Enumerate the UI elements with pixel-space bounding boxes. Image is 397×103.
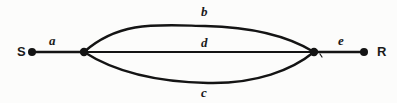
- node-stub-mark: [320, 54, 322, 57]
- node-receiver-dot: [360, 48, 368, 56]
- node-junction-left-dot: [80, 48, 88, 56]
- diagram-canvas: [0, 0, 397, 103]
- node-source-dot: [28, 48, 36, 56]
- edge-c-curve: [84, 52, 314, 83]
- edge-label-e: e: [338, 34, 344, 47]
- node-junction-right-dot: [310, 48, 318, 56]
- node-label-receiver: R: [377, 45, 386, 58]
- edge-b-curve: [84, 25, 314, 52]
- network-diagram: S R a b d c e: [0, 0, 397, 103]
- edge-label-b: b: [201, 5, 208, 18]
- edge-label-d: d: [201, 36, 208, 49]
- node-label-source: S: [17, 45, 26, 58]
- edge-label-a: a: [49, 34, 56, 47]
- edge-label-c: c: [201, 86, 207, 99]
